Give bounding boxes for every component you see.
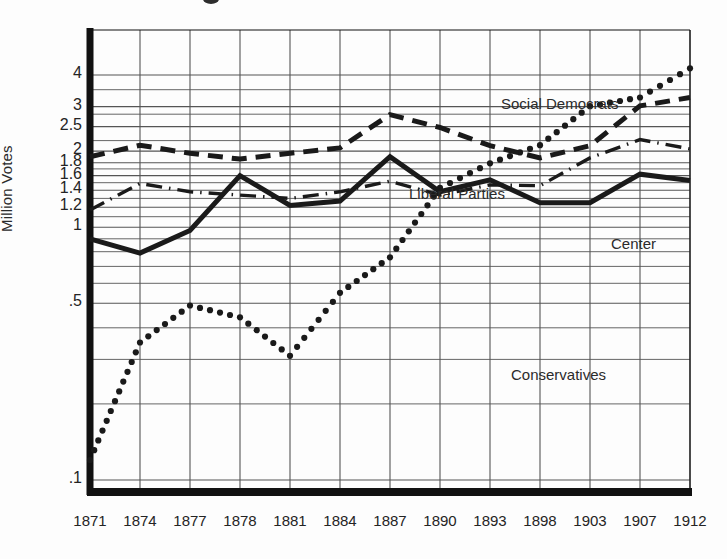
series-label-liberal-parties: Liberal Parties	[409, 185, 505, 202]
y-tick-1: 1	[36, 216, 82, 234]
x-tick-1884: 1884	[315, 512, 365, 529]
x-tick-1912: 1912	[665, 512, 715, 529]
x-tick-1871: 1871	[65, 512, 115, 529]
y-tick-3: 3	[36, 96, 82, 114]
chart-plot-area	[0, 0, 727, 559]
y-tick-1p2: 1.2	[36, 196, 82, 214]
x-tick-1898: 1898	[515, 512, 565, 529]
y-tick-1p4: 1.4	[36, 179, 82, 197]
series-label-center: Center	[611, 235, 656, 252]
y-axis-title: Million Votes	[0, 145, 15, 232]
y-tick-2p5: 2.5	[36, 116, 82, 134]
series-label-conservatives: Conservatives	[511, 366, 606, 383]
y-tick-4: 4	[36, 64, 82, 82]
chart-figure: Million Votes 432.521.81.61.41.21.5.1 18…	[0, 0, 727, 559]
x-tick-1877: 1877	[165, 512, 215, 529]
x-tick-1893: 1893	[465, 512, 515, 529]
x-tick-1878: 1878	[215, 512, 265, 529]
y-tick-p1: .1	[36, 469, 82, 487]
x-tick-1874: 1874	[115, 512, 165, 529]
x-tick-1890: 1890	[415, 512, 465, 529]
series-label-social-democrats: Social Democrats	[501, 95, 619, 112]
x-tick-1887: 1887	[365, 512, 415, 529]
y-tick-p5: .5	[36, 292, 82, 310]
x-tick-1881: 1881	[265, 512, 315, 529]
x-tick-1907: 1907	[615, 512, 665, 529]
x-tick-1903: 1903	[565, 512, 615, 529]
